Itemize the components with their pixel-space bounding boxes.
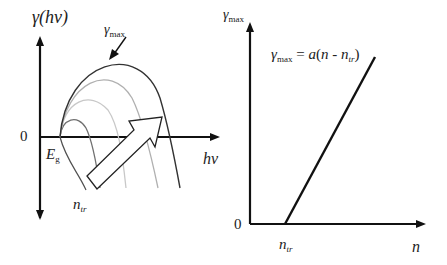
left-y-axis-label: γ(hν) [32,7,68,28]
diagram-canvas [0,0,447,265]
left-x-axis-label: hν [203,150,218,168]
gamma-max-label: γmax [104,22,125,39]
left-y-axis-down-arrowhead [36,210,44,220]
left-panel [36,36,220,220]
ntr-label-left: ntr [73,196,87,214]
right-x-axis-label: n [412,238,420,256]
gamma-max-vs-n-line [285,57,375,224]
gain-curve-outer [60,64,180,188]
eg-label: Eg [46,146,60,164]
right-x-axis-arrowhead [416,220,426,228]
left-x-axis-arrowhead [210,133,220,141]
left-origin-label: 0 [20,128,28,145]
right-origin-label: 0 [234,216,242,233]
gain-curve-below-inner [60,137,86,190]
gamma-max-pointer [114,37,126,54]
gain-equation: γmax = a(n - ntr) [271,46,359,64]
hv-argument: (hν) [39,7,68,27]
left-y-axis-up-arrowhead [36,36,44,46]
right-y-axis-arrowhead [246,22,254,32]
ntr-label-right: ntr [279,236,293,254]
right-y-axis-label: γmax [223,7,244,24]
gamma-max-pointer-head [109,49,119,60]
